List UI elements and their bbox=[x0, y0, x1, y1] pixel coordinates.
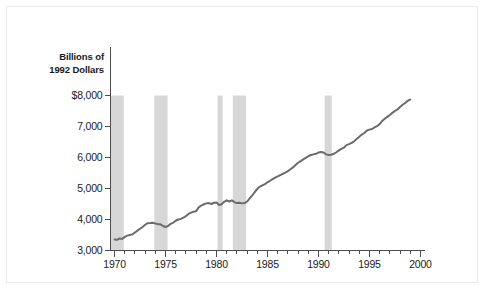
recession-band bbox=[218, 96, 223, 251]
y-tick-label: $8,000 bbox=[43, 89, 103, 101]
x-tick-label: 1995 bbox=[346, 258, 392, 270]
y-tick-label: 3,000 bbox=[43, 244, 103, 256]
y-tick-label: 7,000 bbox=[43, 120, 103, 132]
recession-band bbox=[325, 96, 332, 251]
recession-band bbox=[233, 96, 246, 251]
tick-marks-group bbox=[105, 96, 421, 257]
x-tick-label: 1975 bbox=[143, 258, 189, 270]
x-tick-label: 2000 bbox=[397, 258, 443, 270]
y-tick-label: 4,000 bbox=[43, 213, 103, 225]
x-tick-label: 1970 bbox=[92, 258, 138, 270]
recession-band bbox=[111, 96, 124, 251]
x-tick-label: 1985 bbox=[245, 258, 291, 270]
y-tick-label: 6,000 bbox=[43, 151, 103, 163]
x-tick-label: 1990 bbox=[295, 258, 341, 270]
chart-figure: Billions of 1992 Dollars 3,0004,0005,000… bbox=[0, 0, 485, 290]
y-tick-label: 5,000 bbox=[43, 182, 103, 194]
x-tick-label: 1980 bbox=[194, 258, 240, 270]
